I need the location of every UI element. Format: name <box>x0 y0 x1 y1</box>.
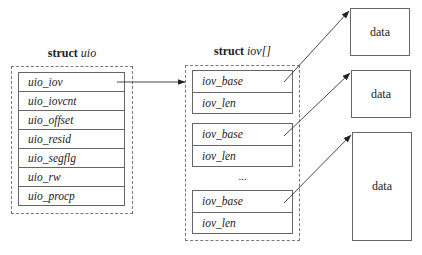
uio-field-iovcnt: uio_iovcnt <box>19 92 124 111</box>
iov-title-name: iov[] <box>247 44 271 58</box>
uio-field-procp: uio_procp <box>19 187 124 206</box>
uio-title-name: uio <box>81 46 96 60</box>
iov-entry-1-base: iov_base <box>193 124 292 146</box>
uio-field-iov: uio_iov <box>19 73 124 92</box>
iov-entry-2-base: iov_base <box>193 191 292 213</box>
iov-entry-0-len: iov_len <box>193 93 292 115</box>
data-block-2-label: data <box>372 179 392 194</box>
iov-entry-2-len: iov_len <box>193 213 292 235</box>
uio-field-resid: uio_resid <box>19 130 124 149</box>
uio-field-segflg: uio_segflg <box>19 149 124 168</box>
data-block-2: data <box>352 132 412 241</box>
iov-entry-1: iov_base iov_len <box>192 123 293 167</box>
uio-title: struct uio <box>11 46 133 61</box>
data-block-1-label: data <box>371 87 391 102</box>
iov-entry-1-len: iov_len <box>193 146 292 168</box>
uio-field-rw: uio_rw <box>19 168 124 187</box>
iov-title-keyword: struct <box>214 44 244 58</box>
uio-title-keyword: struct <box>48 46 78 60</box>
data-block-0: data <box>350 8 410 56</box>
iov-entry-2: iov_base iov_len <box>192 190 293 234</box>
iov-title: struct iov[] <box>185 44 300 59</box>
uio-struct-box: uio_iov uio_iovcnt uio_offset uio_resid … <box>18 72 125 206</box>
uio-field-offset: uio_offset <box>19 111 124 130</box>
iov-entry-0: iov_base iov_len <box>192 70 293 114</box>
data-block-0-label: data <box>370 25 390 40</box>
iov-entry-0-base: iov_base <box>193 71 292 93</box>
iov-ellipsis: ... <box>192 170 293 182</box>
data-block-1: data <box>351 70 411 118</box>
